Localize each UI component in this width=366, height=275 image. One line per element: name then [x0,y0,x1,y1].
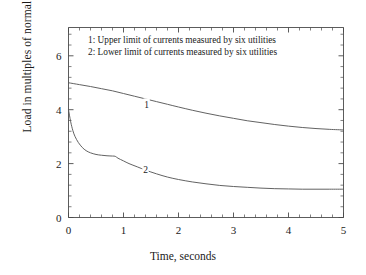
x-tick-label: 0 [66,224,72,236]
plot-canvas: 0123450246121: Upper limit of currents m… [0,0,366,275]
curve-1-inline-label: 1 [144,100,149,110]
y-tick-label: 2 [56,158,62,170]
curve-2-inline-label: 2 [143,165,148,175]
series-line-2 [69,110,344,190]
x-axis-title: Time, seconds [0,250,366,262]
y-tick-label: 0 [56,212,62,224]
x-tick-label: 3 [231,224,237,236]
y-tick-label: 4 [56,104,62,116]
chart-figure: Load in multiples of normal peak current… [0,0,366,275]
data-series-group [69,83,344,189]
x-tick-label: 1 [121,224,127,236]
x-tick-label: 5 [341,224,347,236]
series-line-1 [69,83,344,130]
y-tick-label: 6 [56,50,62,62]
legend-entry-1: 1: Upper limit of currents measured by s… [88,35,276,45]
legend: 1: Upper limit of currents measured by s… [88,35,277,58]
axis-ticks: 0123450246 [56,28,347,236]
curve-annotations: 12 [142,98,149,175]
x-tick-label: 2 [176,224,182,236]
x-tick-label: 4 [286,224,292,236]
legend-entry-2: 2: Lower limit of currents measured by s… [88,47,277,57]
